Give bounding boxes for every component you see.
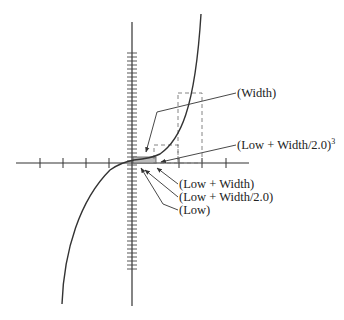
- width-leader: [146, 93, 236, 152]
- low-plus-width-leader: [157, 168, 178, 184]
- large-dashed-box: [178, 93, 202, 163]
- y-axis: [127, 22, 137, 306]
- label-midpoint-cubed-exponent: 3: [331, 137, 335, 146]
- cubic-interval-diagram: (Width) (Low + Width/2.0)3 (Low + Width)…: [0, 0, 344, 320]
- midpoint-cubed-leader: [161, 145, 236, 162]
- label-low-plus-width: (Low + Width): [179, 177, 254, 191]
- label-width: (Width): [237, 86, 276, 100]
- label-low-plus-half-width: (Low + Width/2.0): [179, 190, 273, 204]
- label-low: (Low): [179, 203, 210, 217]
- low-leader: [141, 168, 178, 210]
- small-dashed-box: [154, 145, 178, 163]
- label-midpoint-cubed: (Low + Width/2.0)3: [237, 137, 335, 152]
- label-midpoint-cubed-base: (Low + Width/2.0): [237, 138, 331, 152]
